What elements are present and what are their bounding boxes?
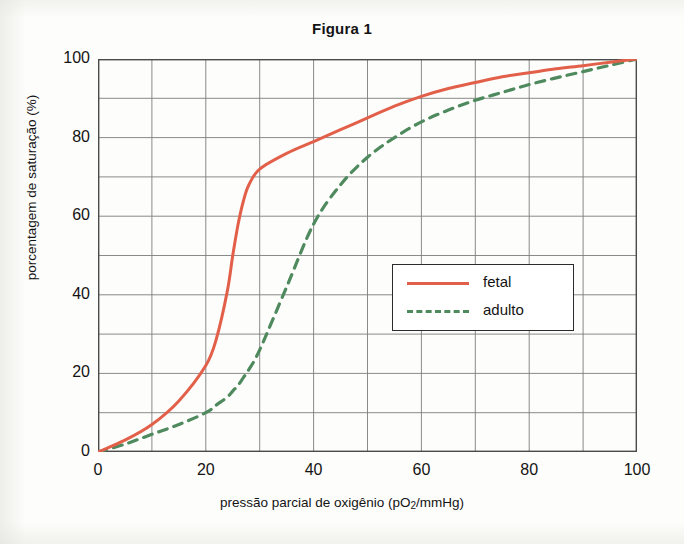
- legend-item-adulto: adulto: [393, 299, 575, 325]
- figure-page: Figura 1 020406080100 020406080100 porce…: [0, 0, 684, 544]
- x-axis-title-prefix: pressão parcial de oxigênio (pO: [220, 495, 411, 510]
- legend-label-fetal: fetal: [483, 273, 511, 290]
- legend: fetal adulto: [392, 264, 574, 331]
- legend-swatch-adulto: [407, 310, 469, 313]
- x-tick-label: 0: [68, 461, 128, 479]
- y-axis-title: porcentagem de saturação (%): [24, 73, 39, 303]
- x-tick-label: 100: [607, 461, 667, 479]
- legend-swatch-fetal: [407, 282, 469, 285]
- legend-label-adulto: adulto: [483, 301, 524, 318]
- x-tick-label: 80: [499, 461, 559, 479]
- x-axis-title-suffix: /mmHg): [416, 495, 464, 510]
- legend-item-fetal: fetal: [393, 271, 575, 297]
- x-axis-title: pressão parcial de oxigênio (pO2/mmHg): [0, 495, 684, 511]
- x-axis-tick-labels: 020406080100: [0, 0, 684, 544]
- x-tick-label: 40: [284, 461, 344, 479]
- x-tick-label: 60: [391, 461, 451, 479]
- x-tick-label: 20: [176, 461, 236, 479]
